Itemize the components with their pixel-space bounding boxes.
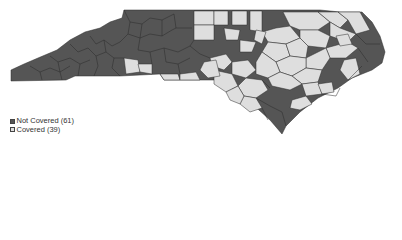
legend-label-covered: Covered (39)	[17, 126, 61, 135]
legend: Not Covered (61) Covered (39)	[10, 117, 74, 134]
swatch-not-covered-icon	[10, 119, 15, 124]
swatch-covered-icon	[10, 127, 15, 132]
legend-item-covered: Covered (39)	[10, 126, 74, 135]
